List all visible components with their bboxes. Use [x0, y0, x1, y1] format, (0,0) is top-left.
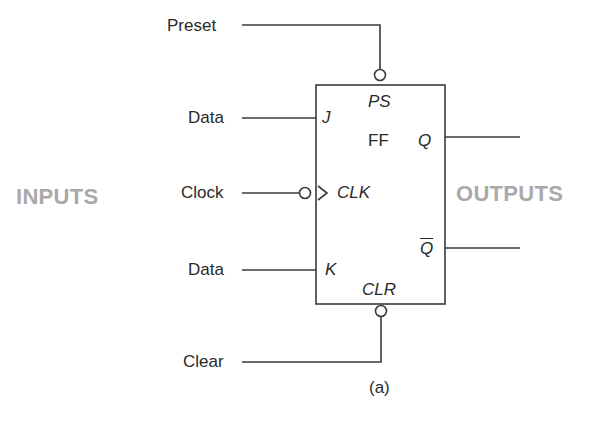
clear-wire: [242, 317, 381, 362]
clr-pin-label: CLR: [362, 280, 396, 300]
j-pin-label: J: [322, 108, 331, 128]
j-data-label: Data: [188, 108, 224, 128]
ps-pin-label: PS: [368, 92, 391, 112]
k-pin-label: K: [325, 260, 336, 280]
figure-caption: (a): [369, 378, 390, 398]
preset-label: Preset: [167, 16, 216, 36]
clock-edge-triangle: [318, 186, 327, 200]
q-pin-label: Q: [418, 131, 431, 151]
flip-flop-wiring: [0, 0, 590, 429]
k-data-label: Data: [188, 260, 224, 280]
clk-pin-label: CLK: [337, 183, 370, 203]
q-bar-pin-label: Q: [420, 239, 433, 259]
clock-label: Clock: [181, 183, 224, 203]
clear-label: Clear: [183, 352, 224, 372]
inputs-group-label: INPUTS: [16, 187, 98, 207]
clock-inversion-bubble: [300, 188, 311, 199]
clear-inversion-bubble: [376, 306, 387, 317]
outputs-group-label: OUTPUTS: [456, 184, 563, 204]
preset-inversion-bubble: [375, 70, 386, 81]
ff-block-label: FF: [368, 131, 389, 151]
preset-wire: [242, 25, 380, 70]
